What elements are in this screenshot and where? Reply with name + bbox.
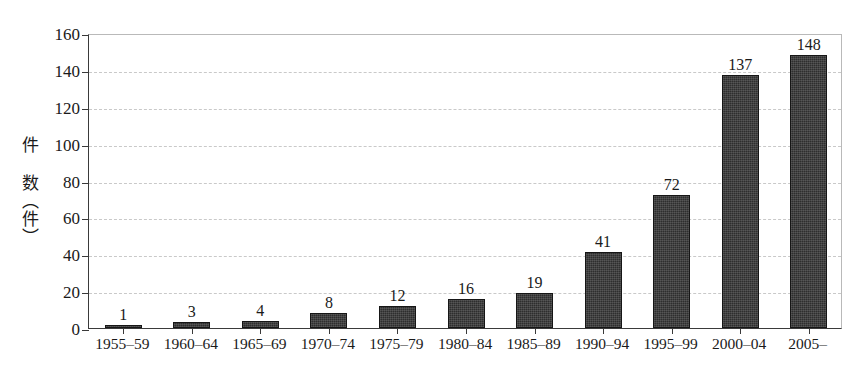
bar <box>722 75 759 328</box>
x-axis-tick <box>603 328 604 334</box>
bar-value-label: 19 <box>495 275 575 291</box>
y-axis-tick <box>82 183 89 184</box>
y-axis-tick-label: 60 <box>20 210 80 227</box>
bar-value-label: 72 <box>632 177 712 193</box>
bar-value-label: 148 <box>769 37 849 53</box>
bar <box>310 313 347 328</box>
y-axis-tick <box>82 330 89 331</box>
bar-value-label: 41 <box>563 234 643 250</box>
y-axis-tick-label: 80 <box>20 174 80 191</box>
bar <box>653 195 690 328</box>
x-axis-tick <box>535 328 536 334</box>
x-axis-tick <box>123 328 124 334</box>
y-axis-tick-label: 120 <box>20 100 80 117</box>
y-axis-tick-label: 140 <box>20 63 80 80</box>
y-axis-tick-label: 100 <box>20 137 80 154</box>
y-axis-tick <box>82 35 89 36</box>
x-axis-tick <box>672 328 673 334</box>
bar-value-label: 137 <box>700 57 780 73</box>
y-axis-tick-label: 40 <box>20 247 80 264</box>
y-axis-tick <box>82 72 89 73</box>
bar <box>516 293 553 328</box>
x-axis-tick-label: 2005– <box>763 336 853 352</box>
x-axis-tick <box>329 328 330 334</box>
bar <box>790 55 827 328</box>
bar <box>585 252 622 328</box>
x-axis-tick <box>466 328 467 334</box>
bar-chart: 件 数（件） 020406080100120140160 13481216194… <box>0 0 861 370</box>
y-axis-tick-label: 20 <box>20 284 80 301</box>
bar <box>173 322 210 328</box>
bar <box>379 306 416 328</box>
y-axis-tick <box>82 219 89 220</box>
bar <box>448 299 485 329</box>
y-axis-tick <box>82 256 89 257</box>
x-axis-tick <box>260 328 261 334</box>
x-axis-tick <box>809 328 810 334</box>
y-axis-tick <box>82 146 89 147</box>
y-axis-tick-label: 0 <box>20 321 80 338</box>
x-axis-tick <box>740 328 741 334</box>
y-axis-tick <box>82 109 89 110</box>
y-axis-tick-label: 160 <box>20 26 80 43</box>
bar <box>242 321 279 328</box>
y-axis-tick <box>82 293 89 294</box>
bar <box>105 325 142 328</box>
x-axis-tick <box>192 328 193 334</box>
plot-area: 13481216194172137148 <box>88 34 842 329</box>
x-axis-tick <box>397 328 398 334</box>
